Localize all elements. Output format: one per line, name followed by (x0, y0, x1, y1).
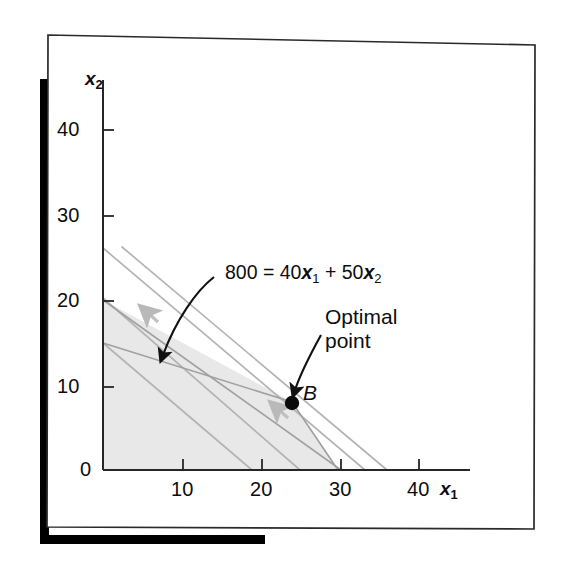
figure-container: x2 x1 0 40 30 20 10 10 20 30 40 800 = 40… (0, 0, 562, 576)
x-tick-label-40: 40 (407, 478, 430, 500)
x-tick-label-30: 30 (329, 478, 352, 500)
optimal-point-label-line1: Optimal (325, 305, 397, 329)
y-tick-label-20: 20 (57, 289, 80, 311)
y-tick-label-40: 40 (57, 118, 80, 140)
optimal-point-label-line2: point (325, 329, 397, 353)
x-tick-label-20: 20 (250, 478, 273, 500)
x-axis-label: x1 (440, 478, 458, 502)
y-axis-label: x2 (85, 68, 103, 92)
point-b-label: B (303, 381, 317, 405)
optimal-point-label: Optimal point (325, 305, 397, 352)
y-tick-label-30: 30 (57, 204, 80, 226)
optimal-point-marker (285, 396, 299, 410)
origin-tick-label: 0 (80, 458, 91, 480)
x-tick-label-10: 10 (171, 478, 194, 500)
objective-equation-label: 800 = 40x1 + 50x2 (225, 262, 382, 286)
y-tick-label-10: 10 (57, 375, 80, 397)
